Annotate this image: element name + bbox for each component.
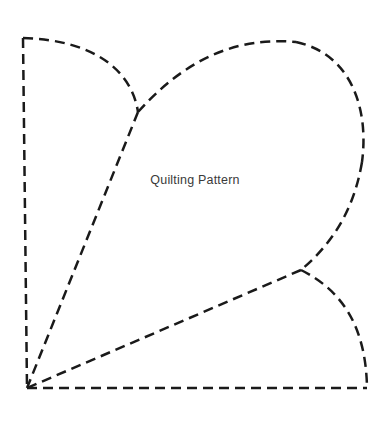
quilting-pattern-drawing bbox=[0, 0, 390, 425]
canvas-background bbox=[0, 0, 390, 425]
